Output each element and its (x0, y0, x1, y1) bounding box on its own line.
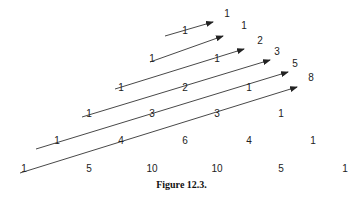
triangle-value: 1 (246, 82, 252, 93)
triangle-value: 8 (308, 72, 314, 83)
figure-caption: Figure 12.3. (0, 179, 363, 190)
diagonal-arrow-5 (20, 87, 297, 173)
triangle-value: 1 (21, 163, 27, 174)
diagonal-arrows (20, 22, 297, 173)
pascal-fibonacci-diagram: 11111212131331514641815101051 (0, 0, 363, 198)
triangle-value: 5 (278, 163, 284, 174)
triangle-value: 1 (86, 108, 92, 119)
triangle-value: 3 (149, 108, 155, 119)
triangle-value: 3 (274, 46, 280, 57)
triangle-numbers: 11111212131331514641815101051 (21, 8, 348, 174)
triangle-value: 6 (182, 135, 188, 146)
triangle-value: 1 (278, 108, 284, 119)
triangle-value: 1 (118, 82, 124, 93)
triangle-value: 1 (224, 8, 230, 19)
triangle-value: 3 (214, 108, 220, 119)
triangle-value: 5 (86, 163, 92, 174)
diagonal-arrow-1 (150, 36, 223, 62)
triangle-value: 1 (54, 135, 60, 146)
triangle-value: 4 (118, 135, 124, 146)
triangle-value: 1 (241, 20, 247, 31)
triangle-value: 4 (246, 135, 252, 146)
triangle-value: 2 (257, 35, 263, 46)
diagonal-arrow-3 (82, 60, 270, 117)
triangle-value: 1 (342, 163, 348, 174)
triangle-value: 1 (310, 135, 316, 146)
triangle-value: 10 (146, 163, 158, 174)
diagonal-arrow-2 (115, 49, 244, 89)
diagonal-arrow-0 (165, 22, 213, 36)
triangle-value: 1 (182, 25, 188, 36)
triangle-value: 2 (182, 82, 188, 93)
triangle-value: 1 (214, 53, 220, 64)
triangle-value: 1 (149, 53, 155, 64)
triangle-value: 10 (211, 163, 223, 174)
triangle-value: 5 (292, 58, 298, 69)
